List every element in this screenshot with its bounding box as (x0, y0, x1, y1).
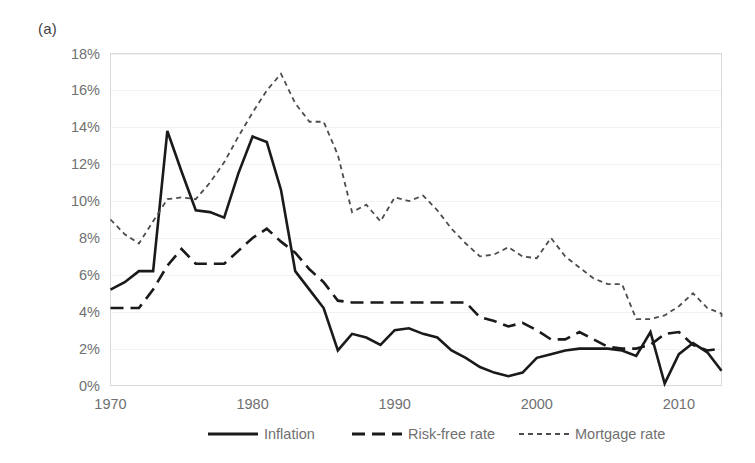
legend-label-risk-free-rate: Risk-free rate (408, 426, 495, 442)
x-axis-tick-label: 1990 (379, 396, 411, 412)
series-group (111, 74, 722, 384)
y-axis-tick-label: 8% (79, 230, 100, 246)
plot-area-border (111, 54, 722, 386)
y-axis-tick-label: 12% (71, 156, 100, 172)
x-axis-tick-label: 2010 (663, 396, 695, 412)
y-axis-tick-label: 18% (71, 46, 100, 62)
series-line-inflation (111, 131, 722, 384)
x-axis-tick-label: 1970 (94, 396, 126, 412)
figure-panel-a: (a) 0%2%4%6%8%10%12%14%16%18% 1970198019… (0, 0, 755, 463)
y-axis-tick-label: 14% (71, 119, 100, 135)
y-axis-tick-label: 6% (79, 267, 100, 283)
y-axis-tick-labels: 0%2%4%6%8%10%12%14%16%18% (71, 46, 100, 394)
legend-label-inflation: Inflation (264, 426, 315, 442)
y-axis-tick-label: 10% (71, 193, 100, 209)
y-axis-tick-label: 0% (79, 378, 100, 394)
legend-label-mortgage-rate: Mortgage rate (575, 426, 665, 442)
y-axis-tick-label: 2% (79, 341, 100, 357)
y-axis-tick-label: 16% (71, 82, 100, 98)
x-axis-tick-labels: 19701980199020002010 (94, 396, 695, 412)
chart-legend: Inflation Risk-free rate Mortgage rate (208, 426, 665, 442)
x-axis-tick-label: 2000 (521, 396, 553, 412)
series-line-mortgage-rate (111, 74, 722, 319)
x-axis-tick-label: 1980 (236, 396, 268, 412)
y-axis-tick-label: 4% (79, 304, 100, 320)
line-chart: 0%2%4%6%8%10%12%14%16%18% 19701980199020… (0, 0, 755, 463)
